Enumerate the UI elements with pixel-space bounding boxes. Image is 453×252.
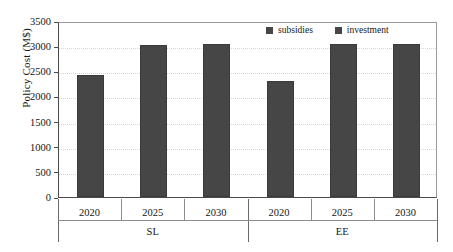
legend-swatch-icon [335,27,342,34]
plot-area [58,22,437,198]
legend-label-investment: investment [347,25,389,35]
gridline [59,73,436,74]
y-tick-label: 0 [46,191,51,204]
x-axis-separator [184,199,185,220]
y-tick-label: 3500 [30,15,51,28]
legend-item-subsidies: subsidies [266,25,313,35]
gridline [59,174,436,175]
x-tick-label: 2025 [312,207,372,218]
legend-swatch-icon [266,27,273,34]
bar [77,75,104,197]
gridline [59,98,436,99]
y-tick-label: 1500 [30,116,51,129]
x-axis-separator [374,199,375,220]
x-axis-band-line [58,220,437,221]
gridline [59,149,436,150]
gridline [59,124,436,125]
x-axis-separator [121,199,122,220]
legend: subsidies investment [266,25,389,35]
x-axis-separator [311,199,312,220]
bar [140,45,167,197]
y-tick-label: 1000 [30,141,51,154]
x-tick-label: 2030 [186,207,246,218]
bar [203,44,230,197]
x-axis-edge [437,199,438,242]
bar [330,44,357,197]
legend-label-subsidies: subsidies [278,25,313,35]
y-tick-label: 2000 [30,90,51,103]
y-tick-label: 500 [35,166,51,179]
x-axis-group-label: SL [113,226,193,237]
bar [393,44,420,197]
x-tick-label: 2020 [249,207,309,218]
x-tick-label: 2025 [123,207,183,218]
gridline [59,48,436,49]
y-tick-label: 3000 [30,40,51,53]
bar [267,81,294,197]
x-axis-group-label: EE [302,226,382,237]
bar-chart: Policy Cost (M$) 05001000150020002500300… [0,0,453,252]
x-tick-label: 2030 [375,207,435,218]
x-tick-label: 2020 [60,207,120,218]
y-tick-label: 2500 [30,65,51,78]
legend-item-investment: investment [335,25,389,35]
